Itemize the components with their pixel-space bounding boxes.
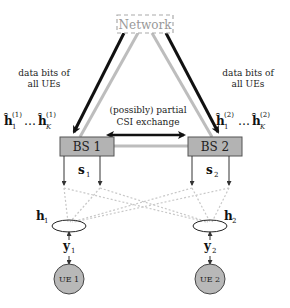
svg-text:1: 1	[71, 247, 75, 255]
svg-text:…: …	[24, 114, 36, 128]
ue2-channel-label: h 2	[224, 209, 236, 225]
ue1-receive-ellipse	[52, 220, 86, 232]
svg-text:K: K	[259, 123, 266, 131]
svg-text:1: 1	[224, 123, 228, 131]
svg-text:y: y	[203, 239, 212, 253]
right-link-label-1: data bits of	[222, 68, 274, 78]
bs2-node: BS 2	[188, 137, 242, 156]
network-label: Network	[119, 18, 173, 32]
ue1-node: UE 1	[54, 264, 84, 294]
bs2-signal-label: s 2	[206, 163, 218, 179]
network-node: Network	[117, 15, 173, 33]
ue2-node: UE 2	[195, 264, 225, 294]
ue2-label: UE 2	[200, 275, 220, 284]
left-link-label-1: data bits of	[18, 68, 70, 78]
csi-label-1: (possibly) partial	[109, 105, 186, 115]
svg-text:1: 1	[44, 217, 48, 225]
ue1-rx-label: y 1	[62, 239, 75, 255]
svg-text:y: y	[62, 239, 71, 253]
svg-text:1: 1	[86, 171, 90, 179]
bs1-csi-estimates: ĥ 1 (1) … ĥ K (1)	[3, 111, 56, 131]
right-link-label-2: all UEs	[232, 79, 265, 89]
svg-text:s: s	[78, 163, 85, 177]
wireless-channels	[64, 188, 229, 222]
svg-text:(1): (1)	[12, 111, 22, 119]
svg-text:…: …	[238, 114, 250, 128]
ue2-receive-ellipse	[193, 220, 227, 232]
bs1-signal-label: s 1	[78, 163, 90, 179]
system-diagram: Network data bits of all UEs data bits o…	[0, 0, 290, 308]
bs2-label: BS 2	[201, 140, 230, 154]
svg-text:2: 2	[212, 247, 216, 255]
ue1-label: UE 1	[59, 275, 79, 284]
svg-text:(2): (2)	[224, 111, 234, 119]
ue2-rx-label: y 2	[203, 239, 216, 255]
bs2-csi-estimates: ĥ 1 (2) … ĥ K (2)	[215, 111, 270, 131]
svg-text:1: 1	[12, 123, 16, 131]
svg-text:2: 2	[214, 171, 218, 179]
svg-text:2: 2	[232, 217, 236, 225]
svg-text:s: s	[206, 163, 213, 177]
csi-label-2: CSI exchange	[117, 117, 180, 127]
ue1-channel-label: h 1	[36, 209, 48, 225]
svg-text:(1): (1)	[46, 111, 56, 119]
bs1-node: BS 1	[60, 137, 114, 156]
svg-text:K: K	[45, 123, 52, 131]
left-link-label-2: all UEs	[28, 79, 61, 89]
bs1-label: BS 1	[73, 140, 102, 154]
svg-text:(2): (2)	[260, 111, 270, 119]
